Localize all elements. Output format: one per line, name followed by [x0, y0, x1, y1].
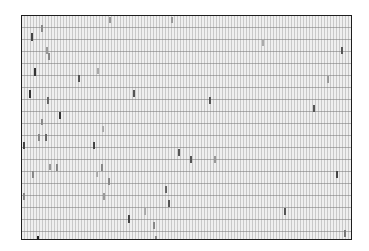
data-mark [96, 171, 98, 177]
data-mark [101, 164, 103, 171]
data-mark [37, 236, 39, 239]
data-mark [32, 171, 34, 178]
data-mark [327, 76, 329, 83]
data-mark [93, 142, 95, 149]
data-mark [49, 164, 51, 170]
data-mark [34, 68, 36, 76]
data-mark [38, 134, 40, 141]
data-mark [29, 90, 31, 98]
data-mark [209, 97, 211, 104]
data-mark [214, 156, 216, 163]
data-mark [341, 47, 343, 54]
data-mark [31, 33, 33, 41]
data-mark [155, 236, 157, 239]
grid-chart-frame [21, 15, 352, 240]
data-mark [23, 193, 25, 200]
data-mark [108, 178, 110, 185]
data-mark [262, 40, 264, 46]
data-mark [313, 105, 315, 112]
data-mark [344, 230, 346, 237]
data-mark [153, 222, 155, 229]
data-mark [41, 119, 43, 125]
data-mark [47, 97, 49, 104]
data-mark [78, 75, 80, 82]
data-mark [284, 208, 286, 215]
data-mark [171, 17, 173, 23]
data-mark [45, 134, 47, 141]
data-mark [336, 171, 338, 178]
data-mark [168, 200, 170, 207]
data-mark [128, 215, 130, 223]
data-mark [97, 68, 99, 74]
data-mark [59, 112, 61, 119]
data-mark [178, 149, 180, 156]
data-mark [144, 208, 146, 215]
data-mark [133, 90, 135, 97]
data-mark [48, 53, 50, 60]
data-mark [56, 164, 58, 171]
data-mark [109, 17, 111, 23]
data-mark [190, 156, 192, 163]
data-mark [23, 142, 25, 149]
data-mark [41, 25, 43, 32]
data-mark [165, 186, 167, 193]
data-mark [102, 126, 104, 132]
data-mark [103, 193, 105, 200]
